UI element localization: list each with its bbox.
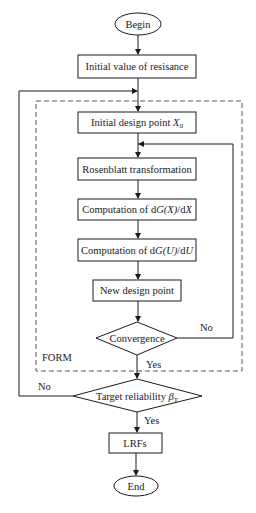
computation-dgu-label: Computation of dG(U)/dU — [81, 245, 194, 257]
convergence-node: Convergence — [96, 322, 177, 355]
new-design-point-label: New design point — [100, 285, 174, 296]
begin-node: Begin — [115, 13, 161, 35]
end-label: End — [128, 481, 146, 492]
new-design-point-node: New design point — [93, 280, 181, 301]
rosenblatt-label: Rosenblatt transformation — [82, 164, 192, 175]
begin-label: Begin — [125, 19, 151, 30]
convergence-label: Convergence — [109, 333, 165, 344]
target-reliability-node: Target reliability βT — [73, 379, 202, 412]
computation-dgx-label: Computation of dG(X)/dX — [82, 204, 192, 216]
target-yes-label: Yes — [144, 415, 159, 426]
computation-dgu-node: Computation of dG(U)/dU — [78, 239, 196, 261]
form-group-label: FORM — [42, 352, 72, 363]
lrfs-label: LRFs — [123, 438, 146, 449]
initial-design-point-node: Initial design point X0 — [78, 112, 196, 133]
target-no-label: No — [38, 381, 51, 392]
computation-dgx-node: Computation of dG(X)/dX — [78, 199, 196, 220]
convergence-yes-label: Yes — [146, 359, 161, 370]
convergence-no-label: No — [200, 322, 213, 333]
initial-resistance-label: Initial value of resisance — [86, 61, 189, 72]
flowchart-canvas: FORM Begin Initial value of resisance In… — [0, 0, 256, 513]
initial-resistance-node: Initial value of resisance — [78, 55, 196, 78]
end-node: End — [114, 476, 158, 496]
lrfs-node: LRFs — [109, 433, 162, 453]
rosenblatt-node: Rosenblatt transformation — [78, 158, 196, 180]
